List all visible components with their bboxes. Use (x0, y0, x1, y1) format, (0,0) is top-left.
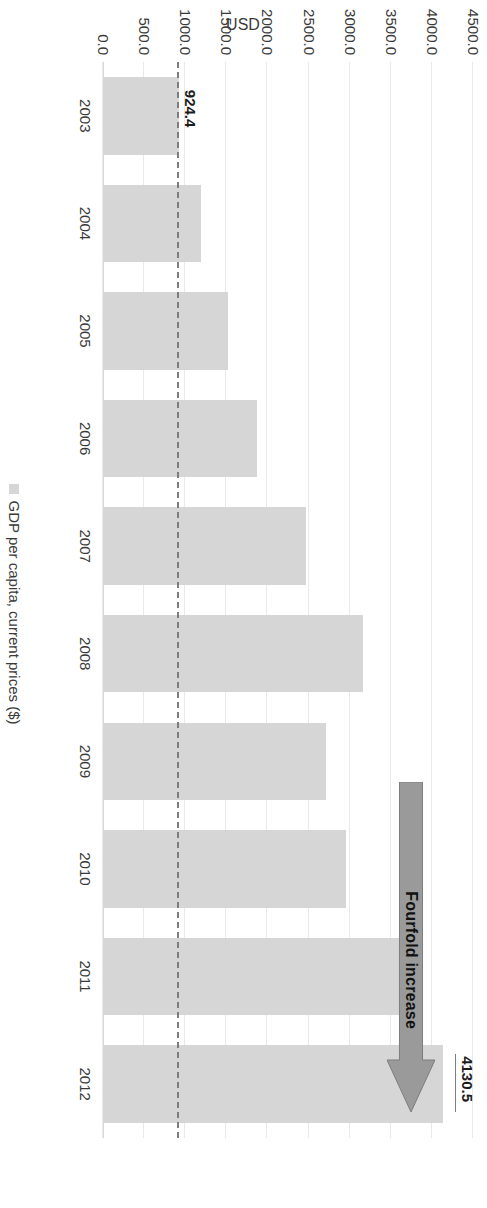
legend-swatch-icon (10, 484, 20, 494)
data-label-4130: 4130.5 (459, 1056, 476, 1102)
legend: GDP per capita, current prices ($) (6, 0, 23, 1208)
legend-label: GDP per capita, current prices ($) (6, 501, 23, 725)
chart-canvas: USD 0.0500.01000.01500.02000.02500.03000… (0, 0, 487, 1208)
bar-2010[interactable] (103, 830, 346, 907)
bar-2005[interactable] (103, 292, 228, 369)
arrow-shape-icon (387, 782, 435, 1112)
x-tick-label: 2007 (77, 529, 94, 562)
x-tick-label: 2009 (77, 745, 94, 778)
bar-2006[interactable] (103, 400, 257, 477)
x-tick-label: 2010 (77, 852, 94, 885)
y-tick-label: 3000.0 (341, 9, 358, 55)
reference-line (177, 62, 179, 1138)
bar-slot[interactable]: 2005 (103, 277, 473, 385)
x-tick-label: 2006 (77, 422, 94, 455)
y-tick-label: 2000.0 (259, 9, 276, 55)
bar-2009[interactable] (103, 723, 326, 800)
y-tick-label: 1500.0 (218, 9, 235, 55)
x-tick-label: 2008 (77, 637, 94, 670)
leader-line (455, 1054, 456, 1112)
x-tick-label: 2003 (77, 99, 94, 132)
y-tick-label: 4500.0 (465, 9, 482, 55)
bar-2004[interactable] (103, 185, 201, 262)
bar-slot[interactable]: 2008 (103, 600, 473, 708)
x-tick-label: 2005 (77, 314, 94, 347)
y-tick-label: 0.0 (95, 34, 112, 55)
bar-slot[interactable]: 2004 (103, 170, 473, 278)
y-tick-label: 500.0 (136, 17, 153, 55)
bar-2003[interactable] (103, 77, 179, 154)
annotation-arrow: Fourfold increase (387, 782, 435, 1112)
y-tick-label: 4000.0 (423, 9, 440, 55)
x-tick-label: 2012 (77, 1067, 94, 1100)
y-tick-label: 1000.0 (177, 9, 194, 55)
bar-slot[interactable]: 2007 (103, 492, 473, 600)
bar-slot[interactable]: 2003 (103, 62, 473, 170)
data-label-924: 924.4 (182, 90, 199, 128)
bar-2007[interactable] (103, 507, 306, 584)
bar-slot[interactable]: 2006 (103, 385, 473, 493)
plot-area: 0.0500.01000.01500.02000.02500.03000.035… (103, 62, 473, 1138)
y-tick-label: 3500.0 (382, 9, 399, 55)
y-tick-label: 2500.0 (300, 9, 317, 55)
x-tick-label: 2004 (77, 207, 94, 240)
bar-2008[interactable] (103, 615, 363, 692)
x-tick-label: 2011 (77, 960, 94, 992)
bar-2011[interactable] (103, 938, 410, 1015)
